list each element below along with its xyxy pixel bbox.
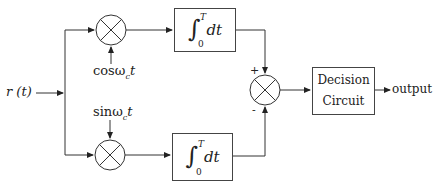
- lower-limit: 0: [198, 39, 204, 49]
- integrand: dt: [204, 148, 220, 166]
- bottom-integrator-block: ∫ T 0 dt: [172, 133, 233, 181]
- lower-limit: 0: [196, 167, 202, 177]
- cos-carrier-label: cosωct: [93, 63, 135, 81]
- decision-line1: Decision: [317, 70, 369, 91]
- upper-limit: T: [198, 139, 204, 149]
- decision-line2: Circuit: [323, 91, 365, 112]
- integrand: dt: [206, 21, 222, 39]
- input-label: r (t): [6, 84, 32, 99]
- output-label: output: [392, 82, 432, 96]
- decision-circuit-block: Decision Circuit: [312, 67, 375, 115]
- top-integrator-block: ∫ T 0 dt: [174, 8, 236, 52]
- integral-symbol: ∫: [185, 142, 198, 170]
- plus-sign: +: [250, 64, 259, 77]
- upper-limit: T: [200, 12, 206, 22]
- sin-carrier-label: sinωct: [93, 104, 133, 122]
- minus-sign: -: [252, 104, 256, 117]
